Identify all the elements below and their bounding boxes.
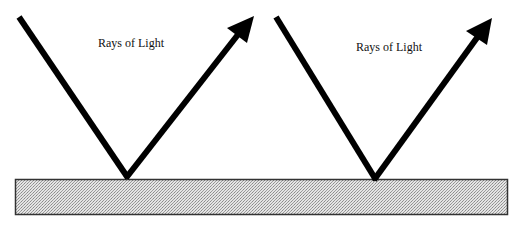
reflected-ray — [374, 35, 479, 180]
reflected-ray — [126, 32, 240, 178]
ray-label-2: Rays of Light — [356, 40, 422, 55]
ray-label-1: Rays of Light — [98, 36, 164, 51]
arrowhead-icon — [466, 18, 492, 45]
diagram-graphics — [0, 0, 526, 231]
reflection-diagram: Rays of Light Rays of Light — [0, 0, 526, 231]
reflecting-surface — [16, 180, 508, 215]
